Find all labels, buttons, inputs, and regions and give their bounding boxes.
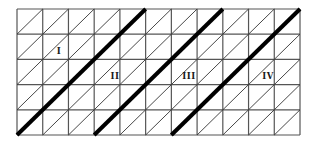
- cell-diagonal: [146, 110, 172, 135]
- cell-diagonal: [43, 34, 69, 59]
- cell-diagonal: [17, 9, 43, 34]
- cell-diagonal: [120, 59, 146, 84]
- region-label-2: II: [111, 71, 120, 81]
- cell-diagonal: [68, 9, 94, 34]
- cell-diagonal: [43, 9, 69, 34]
- cell-diagonal: [68, 34, 94, 59]
- cell-diagonal: [94, 9, 120, 34]
- cell-diagonal: [120, 34, 146, 59]
- triangulated-grid-diagram: I II III IV: [0, 0, 315, 143]
- cell-diagonal: [146, 34, 172, 59]
- cell-diagonal: [43, 59, 69, 84]
- cell-diagonal: [223, 9, 249, 34]
- cell-diagonal: [17, 85, 43, 110]
- thick-diagonals: [17, 9, 300, 135]
- cell-diagonal: [17, 34, 43, 59]
- thick-diagonal-1: [17, 9, 146, 135]
- cell-diagonal: [223, 34, 249, 59]
- cell-diagonal: [197, 34, 223, 59]
- cell-diagonal: [17, 59, 43, 84]
- cell-diagonal: [197, 59, 223, 84]
- cell-diagonal: [94, 85, 120, 110]
- cell-diagonal: [274, 59, 300, 84]
- cell-diagonal: [171, 85, 197, 110]
- region-label-1: I: [57, 46, 61, 56]
- cell-diagonal: [223, 110, 249, 135]
- grid-canvas: I II III IV: [0, 0, 315, 143]
- cell-diagonal: [120, 110, 146, 135]
- cell-diagonal: [274, 34, 300, 59]
- cell-diagonal: [223, 85, 249, 110]
- cell-diagonal: [274, 110, 300, 135]
- cell-diagonal: [146, 85, 172, 110]
- cell-diagonal: [146, 9, 172, 34]
- cell-diagonal: [171, 9, 197, 34]
- cell-diagonal: [274, 85, 300, 110]
- cell-diagonal: [43, 110, 69, 135]
- region-label-3: III: [182, 71, 195, 81]
- cell-diagonal: [197, 110, 223, 135]
- region-label-4: IV: [262, 71, 274, 81]
- cell-diagonal: [249, 110, 275, 135]
- cell-diagonal: [249, 9, 275, 34]
- cell-diagonal: [68, 85, 94, 110]
- cell-diagonal: [68, 110, 94, 135]
- cell-diagonal: [249, 85, 275, 110]
